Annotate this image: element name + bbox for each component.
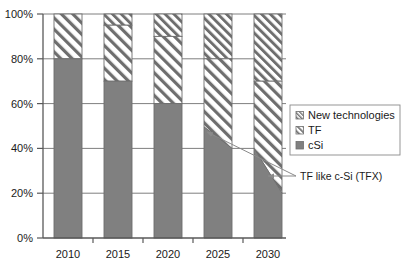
y-tick-label-40: 40% — [11, 142, 33, 154]
bar-group-2025 — [204, 14, 232, 238]
annotation-text: TF like c-Si (TFX) — [300, 170, 382, 182]
x-tick-label-2030: 2030 — [256, 248, 280, 260]
bar-segment-tf-2015 — [104, 25, 132, 81]
x-tick-label-2020: 2020 — [156, 248, 180, 260]
x-tick-label-2010: 2010 — [56, 248, 80, 260]
x-tick-label-2015: 2015 — [106, 248, 130, 260]
x-tick-label-2025: 2025 — [206, 248, 230, 260]
bar-segment-new-2030 — [254, 14, 282, 81]
legend-swatch-new-technologies — [296, 112, 304, 120]
bar-segment-new-2020 — [154, 14, 182, 36]
y-tick-label-60: 60% — [11, 98, 33, 110]
y-tick-label-0: 0% — [17, 232, 33, 244]
bar-segment-new-2015 — [104, 14, 132, 25]
y-tick-label-100: 100% — [5, 8, 33, 20]
chart-container: 100% 80% 60% 40% 20% 0% 2010 2015 2020 2… — [0, 0, 409, 271]
legend-label-tf: TF — [308, 124, 322, 136]
legend-swatch-csi — [296, 142, 304, 150]
bar-segment-tf-2020 — [154, 36, 182, 103]
bar-segment-new-2025 — [204, 14, 232, 59]
bar-segment-csi-2015 — [104, 81, 132, 238]
legend: New technologies TF cSi — [290, 105, 400, 155]
y-tick-label-80: 80% — [11, 53, 33, 65]
bar-group-2030 — [254, 14, 282, 238]
x-axis-ticks — [93, 238, 243, 243]
legend-swatch-tf — [296, 127, 304, 135]
legend-label-csi: cSi — [308, 139, 323, 151]
y-tick-label-20: 20% — [11, 187, 33, 199]
bar-group-2020 — [154, 14, 182, 238]
bar-group-2015 — [104, 14, 132, 238]
bar-segment-csi-2020 — [154, 104, 182, 238]
legend-label-new-technologies: New technologies — [308, 109, 395, 121]
bar-group-2010 — [54, 14, 82, 238]
bar-segment-tf-2010 — [54, 14, 82, 59]
bar-segment-csi-2010 — [54, 59, 82, 238]
y-axis-ticks — [37, 14, 43, 238]
stacked-bar-chart: 100% 80% 60% 40% 20% 0% 2010 2015 2020 2… — [0, 0, 409, 271]
